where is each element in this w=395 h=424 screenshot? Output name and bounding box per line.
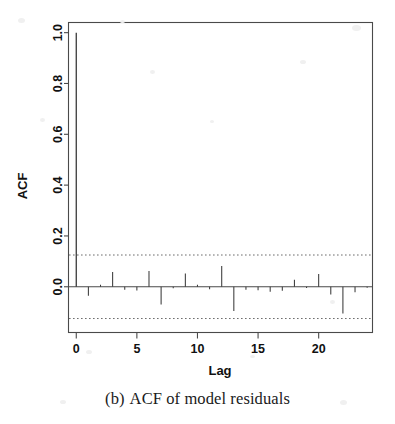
y-tick-label-2: 0.4 — [51, 176, 65, 193]
x-tick-label-2: 10 — [191, 342, 205, 356]
y-tick-label-3: 0.6 — [51, 126, 65, 143]
acf-spike-group — [76, 33, 367, 314]
acf-plot: 0.00.20.40.60.81.0 05101520 ACF Lag — [0, 0, 395, 424]
caption-label: (b) — [105, 389, 125, 408]
x-tick-label-3: 15 — [251, 342, 265, 356]
figure-caption: (b)ACF of model residuals — [0, 389, 395, 409]
x-tick-label-4: 20 — [312, 342, 326, 356]
x-tick-label-1: 5 — [133, 342, 140, 356]
x-axis: 05101520 — [73, 333, 326, 356]
y-tick-label-5: 1.0 — [51, 24, 65, 41]
x-tick-label-0: 0 — [73, 342, 80, 356]
acf-figure: 0.00.20.40.60.81.0 05101520 ACF Lag (b)A… — [0, 0, 395, 424]
y-tick-label-4: 0.8 — [51, 75, 65, 92]
y-axis-title: ACF — [15, 173, 30, 200]
y-tick-label-1: 0.2 — [51, 227, 65, 244]
caption-text: ACF of model residuals — [130, 389, 290, 408]
x-axis-title: Lag — [208, 363, 231, 378]
y-tick-label-0: 0.0 — [51, 278, 65, 295]
y-axis: 0.00.20.40.60.81.0 — [51, 24, 69, 296]
plot-frame — [69, 23, 373, 333]
